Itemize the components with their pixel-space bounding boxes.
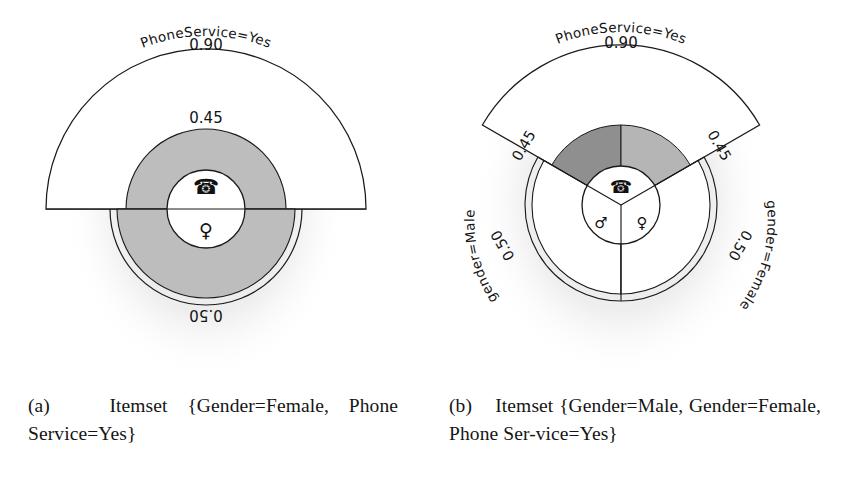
tick-0-50: 0.50 — [189, 306, 222, 324]
caption-a-label: (a) — [28, 395, 50, 416]
male-icon: ♂ — [594, 214, 607, 232]
tick-0-90: 0.90 — [189, 36, 222, 54]
tick-0-90: 0.90 — [604, 34, 637, 52]
radial-chart-a: ☎ ♀ PhoneService=Yes 0.90 0.45 0.50 gend… — [0, 0, 421, 386]
caption-b-label: (b) — [449, 395, 472, 416]
tick-0-45: 0.45 — [189, 109, 222, 127]
caption-b: (b) Itemset {Gender=Male, Gender=Female,… — [449, 392, 821, 447]
phone-icon: ☎ — [193, 175, 219, 199]
radial-chart-b: ☎ ♂ ♀ PhoneService=Yes 0.90 0.45 0.45 0.… — [421, 0, 842, 386]
caption-b-text: Itemset {Gender=Male, Gender=Female, Pho… — [449, 395, 821, 444]
subfigure-a: ☎ ♀ PhoneService=Yes 0.90 0.45 0.50 gend… — [0, 0, 421, 497]
phone-icon: ☎ — [610, 176, 632, 197]
radial-chart-a-svg: ☎ ♀ PhoneService=Yes 0.90 0.45 0.50 gend… — [0, 0, 421, 386]
subfigure-b: ☎ ♂ ♀ PhoneService=Yes 0.90 0.45 0.45 0.… — [421, 0, 842, 497]
female-icon: ♀ — [637, 214, 648, 232]
radial-chart-b-svg: ☎ ♂ ♀ PhoneService=Yes 0.90 0.45 0.45 0.… — [421, 0, 842, 386]
caption-a-text: Itemset {Gender=Female, Phone Service=Ye… — [28, 395, 398, 444]
figure-row: ☎ ♀ PhoneService=Yes 0.90 0.45 0.50 gend… — [0, 0, 842, 497]
female-icon: ♀ — [199, 219, 213, 241]
caption-a: (a) Itemset {Gender=Female, Phone Servic… — [28, 392, 398, 447]
